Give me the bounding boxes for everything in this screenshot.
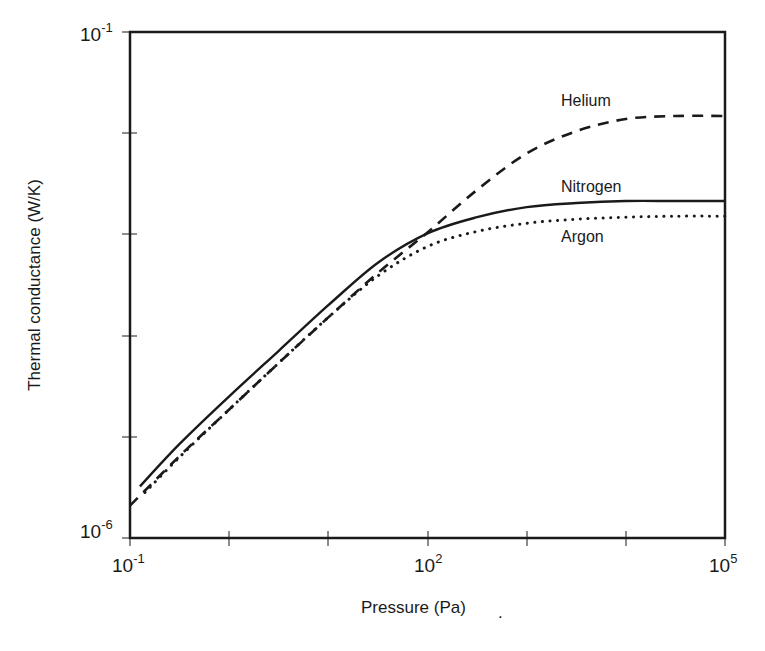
series-layer — [130, 116, 725, 506]
series-argon-line — [145, 216, 725, 492]
x-tick-label-mid: 102 — [414, 551, 442, 576]
series-helium-line — [130, 116, 725, 506]
series-label-helium: Helium — [561, 92, 611, 109]
series-label-nitrogen: Nitrogen — [561, 178, 621, 195]
x-tick-label-min: 10-1 — [112, 551, 145, 576]
plot-frame — [130, 32, 725, 538]
y-axis-title: Thermal conductance (W/K) — [25, 179, 44, 391]
y-tick-label-max: 10-1 — [80, 20, 113, 45]
series-label-argon: Argon — [561, 228, 604, 245]
x-axis-title: Pressure (Pa) — [361, 598, 466, 617]
series-nitrogen-line — [140, 201, 725, 487]
x-axis-trailing-mark: . — [498, 603, 503, 622]
x-tick-label-max: 105 — [709, 551, 737, 576]
thermal-conductance-chart: 10-1 102 105 10-1 10-6 Pressure (Pa) . T… — [0, 0, 765, 651]
y-tick-label-min: 10-6 — [80, 517, 113, 542]
